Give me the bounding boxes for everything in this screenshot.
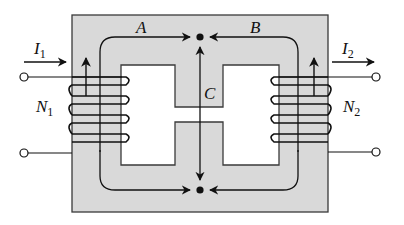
label-current-1: I1 — [33, 39, 46, 61]
transformer-core-diagram: A B C I1 I2 N1 N2 — [0, 0, 404, 225]
label-path-b: B — [250, 18, 261, 37]
flux-node-top — [196, 33, 203, 40]
secondary-terminal-bottom — [372, 148, 380, 156]
secondary-terminal-top — [372, 73, 380, 81]
current-2-subscript: 2 — [348, 47, 354, 61]
primary-terminal-top — [20, 73, 28, 81]
label-path-c: C — [204, 84, 216, 103]
turns-2-subscript: 2 — [354, 105, 360, 119]
flux-node-bottom — [196, 186, 203, 193]
primary-terminal-bottom — [20, 149, 28, 157]
label-turns-1: N1 — [35, 97, 53, 119]
current-1-subscript: 1 — [40, 47, 46, 61]
label-turns-2: N2 — [342, 97, 360, 119]
label-path-a: A — [135, 18, 147, 37]
label-current-2: I2 — [341, 39, 354, 61]
turns-1-subscript: 1 — [47, 105, 53, 119]
